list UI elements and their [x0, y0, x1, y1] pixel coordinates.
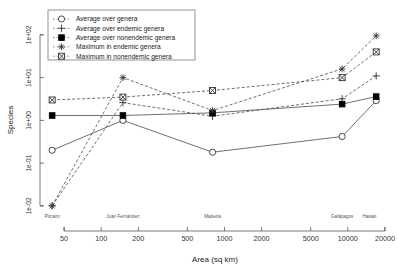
legend-label-0: Average over genera: [76, 15, 138, 23]
chart-legend: Average over generaAverage over endemic …: [48, 10, 195, 61]
island-label-gal-pagos: Galápagos: [331, 214, 354, 219]
x-tick-label-0: 50: [60, 234, 68, 243]
data-point-maximum-in-nonendemic-genera-3: [339, 75, 345, 81]
x-axis-title: Area (sq km): [192, 255, 238, 264]
legend-label-4: Maximum in nonendemic genera: [76, 53, 172, 61]
legend-label-3: Maximum in endemic genera: [76, 43, 161, 51]
y-tick-group: 1e-021e-011e+001e+011e+02: [25, 25, 44, 214]
y-axis: 1e-021e-011e+001e+011e+02 Species: [6, 25, 44, 214]
island-label-pitcairn: Pitcairn: [44, 214, 60, 219]
island-label-hawaii: Hawaii: [362, 214, 376, 219]
x-tick-label-2: 200: [132, 234, 144, 243]
legend-marker-4: [59, 53, 65, 59]
legend-label-2: Average over nonendemic genera: [76, 34, 176, 42]
data-point-average-over-genera-2: [209, 149, 215, 155]
x-tick-label-5: 2000: [254, 234, 270, 243]
data-point-maximum-in-nonendemic-genera-1: [120, 94, 126, 100]
data-point-average-over-nonendemic-genera-3: [339, 101, 345, 107]
data-point-average-over-genera-0: [49, 147, 55, 153]
island-label-group: PitcairnJuan FernándezMadeiraGalápagosHa…: [44, 214, 376, 219]
legend-marker-2: [59, 35, 65, 41]
data-point-average-over-genera-3: [339, 133, 345, 139]
data-point-maximum-in-nonendemic-genera-0: [49, 97, 55, 103]
x-tick-label-6: 5000: [303, 234, 319, 243]
data-point-average-over-endemic-genera-4: [373, 72, 380, 79]
data-point-average-over-nonendemic-genera-1: [120, 113, 126, 119]
legend-marker-3: [58, 44, 65, 51]
data-point-maximum-in-nonendemic-genera-2: [210, 87, 216, 93]
y-tick-label-3: 1e+01: [25, 68, 32, 87]
island-label-juan-fern-ndez: Juan Fernández: [106, 214, 140, 219]
species-area-plot: 1e-021e-011e+001e+011e+02 Species 501002…: [0, 0, 399, 275]
data-point-maximum-in-endemic-genera-0: [49, 202, 56, 209]
series-line-average-over-endemic-genera: [52, 76, 376, 206]
series-line-group: [52, 36, 376, 206]
x-tick-label-4: 1000: [216, 234, 232, 243]
x-axis: 501002005001000200050001000020000 Area (…: [60, 227, 395, 264]
island-label-madeira: Madeira: [204, 214, 221, 219]
x-tick-label-1: 100: [95, 234, 107, 243]
chart-figure: 1e-021e-011e+001e+011e+02 Species 501002…: [0, 0, 399, 275]
data-point-maximum-in-endemic-genera-1: [120, 74, 127, 81]
x-tick-label-7: 10000: [338, 234, 358, 243]
data-point-average-over-nonendemic-genera-0: [49, 113, 55, 119]
data-point-maximum-in-nonendemic-genera-4: [373, 49, 379, 55]
data-point-maximum-in-endemic-genera-2: [209, 107, 216, 114]
y-tick-label-4: 1e+02: [25, 25, 32, 44]
data-point-average-over-nonendemic-genera-4: [373, 94, 379, 100]
y-axis-title: Species: [6, 106, 15, 134]
x-tick-label-8: 20000: [375, 234, 395, 243]
data-point-maximum-in-endemic-genera-3: [339, 65, 346, 72]
x-tick-label-3: 500: [181, 234, 193, 243]
data-point-maximum-in-endemic-genera-4: [373, 32, 380, 39]
y-tick-label-0: 1e-02: [25, 197, 32, 214]
y-tick-label-2: 1e+00: [25, 111, 32, 130]
legend-marker-0: [58, 16, 64, 22]
x-tick-group: 501002005001000200050001000020000: [60, 227, 395, 243]
legend-label-1: Average over endemic genera: [76, 25, 165, 33]
y-tick-label-1: 1e-01: [25, 154, 32, 171]
series-line-maximum-in-endemic-genera: [52, 36, 376, 206]
